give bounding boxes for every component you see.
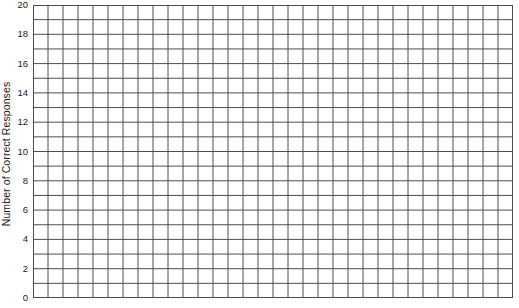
y-axis-tick-label: 18 bbox=[17, 29, 28, 39]
grid-lines bbox=[33, 5, 513, 298]
y-axis-tick-label: 0 bbox=[23, 293, 28, 303]
y-axis-tick-label: 8 bbox=[23, 176, 28, 186]
y-axis-tick-label: 20 bbox=[17, 0, 28, 10]
y-axis-tick-label: 6 bbox=[23, 205, 28, 215]
y-axis-tick-label: 16 bbox=[17, 59, 28, 69]
y-axis-tick-label-group: 20181614121086420 bbox=[0, 5, 31, 298]
blank-data-grid-chart: Number of Correct Responses 201816141210… bbox=[0, 0, 519, 308]
plot-grid-area[interactable] bbox=[33, 5, 513, 298]
y-axis-tick-label: 14 bbox=[17, 88, 28, 98]
y-axis-tick-label: 12 bbox=[17, 117, 28, 127]
y-axis-tick-label: 10 bbox=[17, 147, 28, 157]
y-axis-tick-label: 2 bbox=[23, 264, 28, 274]
y-axis-tick-label: 4 bbox=[23, 234, 28, 244]
